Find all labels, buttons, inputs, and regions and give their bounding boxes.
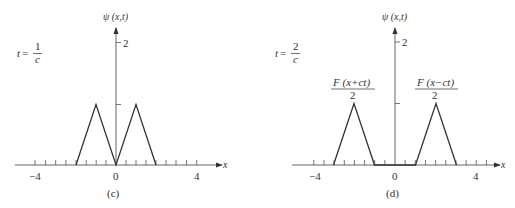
svg-text:1: 1	[35, 40, 41, 52]
wave-figure: 2 ψ (x,t) x −4 0 4 (c) t = 1 c	[0, 0, 515, 208]
svg-text:c: c	[293, 53, 298, 65]
svg-text:F (x+ct): F (x+ct)	[332, 76, 370, 89]
annotation-right-wave: F (x−ct) 2	[415, 76, 458, 101]
time-label: t = 2 c	[275, 40, 300, 65]
x-tick-label-neg4: −4	[29, 170, 41, 182]
panel-caption: (d)	[386, 187, 399, 200]
panel-caption: (c)	[107, 187, 120, 200]
x-tick-label-4: 4	[473, 170, 479, 182]
y-axis-label: ψ (x,t)	[382, 11, 408, 23]
x-axis-label: x	[500, 159, 506, 170]
panel-d: 2 ψ (x,t) x −4 0 4 (d) t = 2 c F (x+ct) …	[275, 11, 506, 200]
x-axis-label: x	[222, 159, 228, 170]
svg-text:=: =	[280, 47, 286, 59]
y-axis-label: ψ (x,t)	[103, 11, 129, 23]
svg-text:t: t	[17, 47, 21, 59]
svg-text:2: 2	[432, 89, 438, 101]
panel-c: 2 ψ (x,t) x −4 0 4 (c) t = 1 c	[15, 11, 228, 200]
svg-text:t: t	[275, 47, 279, 59]
x-tick-label-4: 4	[194, 170, 200, 182]
svg-text:F (x−ct): F (x−ct)	[416, 76, 454, 89]
annotation-left-wave: F (x+ct) 2	[331, 76, 375, 101]
svg-text:2: 2	[293, 40, 299, 52]
x-tick-label-0: 0	[392, 170, 398, 182]
svg-text:=: =	[22, 47, 28, 59]
y-tick-label: 2	[402, 36, 408, 48]
svg-text:c: c	[35, 53, 40, 65]
x-tick-label-0: 0	[113, 170, 119, 182]
svg-text:2: 2	[350, 89, 356, 101]
time-label: t = 1 c	[17, 40, 42, 65]
x-tick-label-neg4: −4	[309, 170, 321, 182]
x-ticks	[314, 160, 487, 165]
y-tick-label: 2	[123, 37, 129, 49]
